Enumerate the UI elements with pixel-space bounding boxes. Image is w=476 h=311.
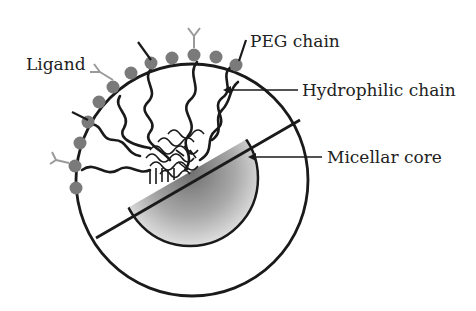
micellar-core-label: Micellar core — [327, 149, 442, 166]
peg-chain-label: PEG chain — [250, 33, 340, 50]
ligand-label: Ligand — [26, 56, 86, 73]
hydrophilic-chains — [82, 62, 238, 172]
hydrophilic-chain-label: Hydrophilic chain — [302, 82, 456, 99]
